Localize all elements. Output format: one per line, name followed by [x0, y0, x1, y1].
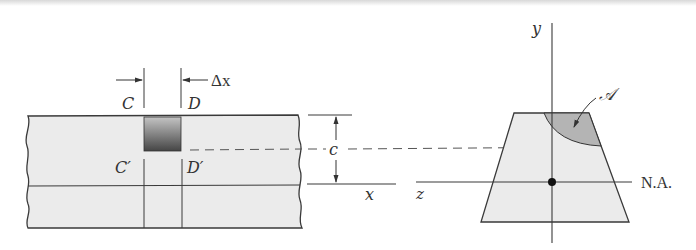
dimension-c-label: c	[329, 140, 338, 159]
shaded-element	[144, 117, 181, 151]
section-c-label: C	[122, 94, 134, 113]
y-axis-label: y	[531, 19, 542, 38]
delta-x-label: Δx	[211, 71, 231, 90]
beam-side-view: Δx C D C′ D′	[26, 68, 302, 228]
diagram-canvas: Δx C D C′ D′ c x y N.A. z 𝒜	[0, 0, 696, 250]
centroid-dot	[548, 178, 556, 186]
cross-section-view: y N.A. z 𝒜	[415, 19, 672, 243]
section-d-prime-label: D′	[186, 158, 204, 177]
area-label: 𝒜	[599, 84, 620, 104]
z-axis-label: z	[415, 185, 424, 203]
x-axis-label: x	[365, 185, 374, 204]
section-c-prime-label: C′	[115, 158, 131, 177]
section-d-label: D	[187, 94, 201, 113]
neutral-axis-label: N.A.	[641, 174, 672, 191]
